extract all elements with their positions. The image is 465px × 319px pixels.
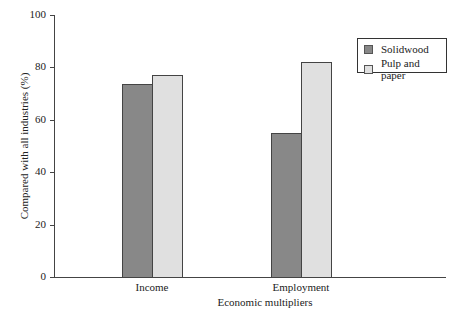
legend-item-solidwood: Solidwood [364, 43, 429, 55]
y-axis-label: Compared with all industries (%) [18, 66, 30, 226]
bar-employment-solidwood [271, 133, 302, 278]
bar-income-solidwood [122, 84, 153, 278]
y-tick-label: 0 [6, 270, 46, 282]
y-tick-mark [50, 172, 55, 173]
legend-label: Pulp and paper [381, 57, 446, 81]
bar-income-pulp-and-paper [152, 75, 183, 278]
legend-item-pulp-and-paper: Pulp and paper [364, 57, 446, 81]
legend-label: Solidwood [381, 43, 429, 55]
y-tick-mark [50, 120, 55, 121]
legend: Solidwood Pulp and paper [357, 38, 447, 73]
x-axis [54, 277, 446, 278]
x-tick-employment: Employment [251, 281, 351, 293]
bar-employment-pulp-and-paper [301, 62, 332, 278]
y-tick-mark [50, 67, 55, 68]
legend-swatch-pulp [364, 65, 373, 74]
y-tick-label: 100 [6, 8, 46, 20]
y-tick-mark [50, 225, 55, 226]
x-tick-income: Income [102, 281, 202, 293]
y-tick-mark [50, 15, 55, 16]
y-axis [54, 15, 55, 278]
legend-swatch-solidwood [364, 45, 373, 54]
y-tick-mark [50, 277, 55, 278]
x-axis-label: Economic multipliers [165, 296, 365, 308]
